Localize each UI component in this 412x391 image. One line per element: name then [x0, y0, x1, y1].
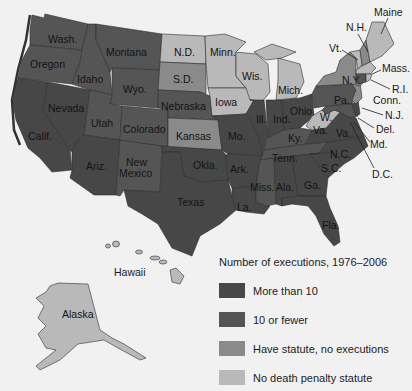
label-sd: S.D.: [173, 73, 193, 85]
label-wva-2: Va.: [313, 124, 328, 136]
label-nevada: Nevada: [48, 102, 84, 114]
label-wis: Wis.: [242, 70, 262, 82]
label-nj: N.J.: [385, 109, 404, 121]
label-nc: N.C.: [330, 148, 351, 160]
label-calif: Calif.: [28, 130, 52, 142]
label-texas: Texas: [177, 196, 204, 208]
label-montana: Montana: [106, 46, 147, 58]
legend-item-10-or-fewer: 10 or fewer: [219, 305, 409, 334]
label-ala: Ala.: [276, 181, 294, 193]
label-colorado: Colorado: [123, 123, 166, 135]
label-fla: Fla.: [322, 219, 340, 231]
label-idaho: Idaho: [77, 73, 103, 85]
label-newmexico-2: Mexico: [119, 167, 152, 179]
label-oregon: Oregon: [30, 58, 65, 70]
legend-label: Have statute, no executions: [253, 343, 389, 355]
label-del: Del.: [376, 123, 395, 135]
label-tenn: Tenn.: [272, 152, 298, 164]
label-sc: S.C.: [321, 162, 341, 174]
label-minn: Minn.: [210, 46, 236, 58]
label-mo: Mo.: [228, 130, 246, 142]
legend-item-statute-no-executions: Have statute, no executions: [219, 334, 409, 363]
label-wash: Wash.: [48, 33, 77, 45]
label-la: La.: [237, 201, 252, 213]
legend-swatch: [219, 341, 245, 356]
label-nebraska: Nebraska: [161, 100, 206, 112]
label-ky: Ky.: [288, 132, 302, 144]
label-conn: Conn.: [373, 94, 401, 106]
label-ohio: Ohio: [290, 105, 312, 117]
legend: Number of executions, 1976–2006 More tha…: [219, 256, 409, 391]
label-miss: Miss.: [250, 181, 275, 193]
legend-item-no-statute: No death penalty statute: [219, 363, 409, 391]
label-dc: D.C.: [372, 168, 393, 180]
legend-item-more-than-10: More than 10: [219, 276, 409, 305]
label-kansas: Kansas: [176, 130, 211, 142]
label-nh: N.H.: [346, 21, 367, 33]
label-mass: Mass.: [382, 62, 410, 74]
label-wyo: Wyo.: [123, 83, 147, 95]
label-ariz: Ariz.: [86, 160, 107, 172]
label-va: Va.: [336, 127, 351, 139]
legend-label: More than 10: [253, 285, 318, 297]
label-hawaii: Hawaii: [114, 266, 146, 278]
label-ny: N.Y.: [342, 74, 361, 86]
legend-swatch: [219, 370, 245, 385]
label-ind: Ind.: [273, 113, 291, 125]
legend-swatch: [219, 312, 245, 327]
state-maine: [366, 22, 394, 62]
label-okla: Okla.: [193, 159, 218, 171]
state-alaska: [36, 283, 146, 370]
label-md: Md.: [370, 138, 388, 150]
label-ark: Ark.: [230, 163, 249, 175]
label-wva-1: W.: [320, 111, 332, 123]
state-ri: [366, 74, 372, 82]
label-utah: Utah: [91, 117, 113, 129]
legend-title: Number of executions, 1976–2006: [219, 256, 409, 268]
legend-label: 10 or fewer: [253, 314, 308, 326]
label-maine: Maine: [374, 6, 403, 18]
label-vt: Vt.: [329, 42, 342, 54]
label-ga: Ga.: [304, 179, 321, 191]
legend-label: No death penalty statute: [253, 372, 372, 384]
label-nd: N.D.: [174, 46, 195, 58]
legend-swatch: [219, 283, 245, 298]
label-alaska: Alaska: [62, 308, 94, 320]
label-mich: Mich.: [278, 84, 303, 96]
label-ill: Ill.: [256, 113, 267, 125]
label-pa: Pa.: [334, 94, 350, 106]
label-iowa: Iowa: [215, 96, 237, 108]
